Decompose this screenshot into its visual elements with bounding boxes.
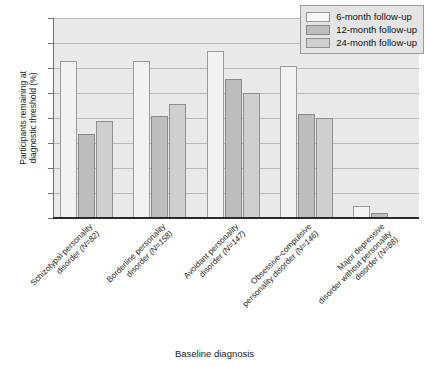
legend-swatch-6-month: [306, 12, 330, 22]
bar-g2-s3: [169, 104, 186, 218]
legend-label-12-month: 12-month follow-up: [336, 24, 417, 35]
legend-swatch-12-month: [306, 25, 330, 35]
legend-label-6-month: 6-month follow-up: [336, 11, 412, 22]
legend-item-24-month: 24-month follow-up: [306, 36, 417, 49]
bar-g1-s2: [78, 134, 95, 218]
y-tick-mark-10: [48, 193, 53, 194]
bar-g1-s3: [96, 121, 113, 219]
bar-group-2: [133, 18, 186, 218]
y-tick-mark-40: [48, 118, 53, 119]
chart-figure: Participants remaining at diagnostic thr…: [0, 0, 429, 366]
y-tick-mark-20: [48, 168, 53, 169]
legend-label-24-month: 24-month follow-up: [336, 37, 417, 48]
bar-g4-s2: [298, 114, 315, 218]
y-tick-mark-80: [48, 18, 53, 19]
legend-item-12-month: 12-month follow-up: [306, 23, 417, 36]
y-tick-mark-70: [48, 43, 53, 44]
bar-group-1: [60, 18, 113, 218]
legend-swatch-24-month: [306, 38, 330, 48]
bar-g3-s3: [243, 93, 260, 218]
bar-g4-s1: [280, 66, 297, 219]
bar-g2-s2: [151, 116, 168, 219]
y-axis-title: Participants remaining at diagnostic thr…: [18, 28, 38, 208]
legend: 6-month follow-up 12-month follow-up 24-…: [300, 5, 424, 54]
y-tick-mark-30: [48, 143, 53, 144]
y-tick-mark-60: [48, 68, 53, 69]
bar-group-3: [207, 18, 260, 218]
bar-g2-s1: [133, 61, 150, 219]
y-tick-mark-50: [48, 93, 53, 94]
x-axis-line: [53, 217, 419, 219]
bar-g1-s1: [60, 61, 77, 219]
bar-g4-s3: [316, 118, 333, 218]
legend-item-6-month: 6-month follow-up: [306, 10, 417, 23]
bar-g3-s1: [207, 51, 224, 219]
x-axis-title: Baseline diagnosis: [0, 348, 429, 359]
bar-g3-s2: [225, 79, 242, 218]
